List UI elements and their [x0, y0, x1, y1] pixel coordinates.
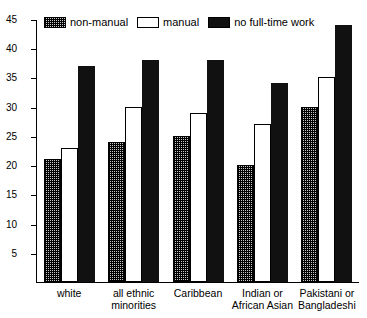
x-axis-label: all ethnic minorities	[101, 287, 165, 311]
x-axis-line	[36, 282, 359, 283]
bar-non-manual	[108, 142, 125, 282]
y-axis-tick	[31, 20, 36, 21]
y-axis-tick-label: 15	[0, 190, 17, 200]
y-axis-tick-label: 30	[0, 103, 17, 113]
bar-groups	[37, 20, 359, 282]
x-axis-labels: whiteall ethnic minoritiesCaribbeanIndia…	[37, 287, 359, 311]
y-axis-tick	[31, 225, 36, 226]
bar-non-manual	[173, 136, 190, 282]
x-axis-label: Pakistani or Bangladeshi	[295, 287, 359, 311]
y-axis-tick-label: 20	[0, 161, 17, 171]
y-axis-tick-label: 40	[0, 44, 17, 54]
y-axis-tick	[31, 195, 36, 196]
y-axis-tick	[31, 137, 36, 138]
bar-manual	[125, 107, 142, 282]
bar-non-manual	[44, 159, 61, 282]
x-axis-label: Caribbean	[166, 287, 230, 311]
y-axis-tick-label: 10	[0, 220, 17, 230]
bar-no-full-time-work	[335, 25, 352, 282]
y-axis-tick	[31, 78, 36, 79]
y-axis-tick-label: 25	[0, 132, 17, 142]
bar-group	[37, 20, 101, 282]
y-axis-tick	[31, 49, 36, 50]
y-axis-tick	[31, 254, 36, 255]
plot-area: 51015202530354045	[36, 20, 359, 283]
bar-no-full-time-work	[207, 60, 224, 282]
bar-manual	[190, 113, 207, 282]
bar-group	[101, 20, 165, 282]
bar-no-full-time-work	[142, 60, 159, 282]
bar-group	[230, 20, 294, 282]
y-axis-tick-label: 35	[0, 73, 17, 83]
bar-chart: non-manual manual no full-time work 5101…	[0, 0, 367, 318]
bar-group	[166, 20, 230, 282]
y-axis-tick-label: 45	[0, 15, 17, 25]
bar-manual	[254, 124, 271, 282]
y-axis-tick	[31, 108, 36, 109]
y-axis-tick-label: 5	[0, 249, 17, 259]
bar-manual	[318, 77, 335, 282]
bar-group	[295, 20, 359, 282]
bar-no-full-time-work	[271, 83, 288, 282]
bar-non-manual	[237, 165, 254, 282]
bar-non-manual	[301, 107, 318, 282]
x-axis-label: white	[37, 287, 101, 311]
x-axis-label: Indian or African Asian	[230, 287, 294, 311]
y-axis-tick	[31, 166, 36, 167]
bar-manual	[61, 148, 78, 282]
bar-no-full-time-work	[78, 66, 95, 282]
